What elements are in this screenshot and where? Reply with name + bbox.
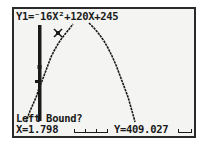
calculator-screen: Y1=⁻16X²+120X+245 Left Bound? X=1.798 Y=… xyxy=(12,7,196,138)
left-bound-prompt: Left Bound? xyxy=(16,113,82,124)
cursor-y-value: Y=409.027 xyxy=(114,124,168,135)
x-cross-marker xyxy=(54,29,62,37)
curve-intersection-point xyxy=(35,80,38,83)
left-bound-line xyxy=(38,25,42,121)
parabola-curve-left xyxy=(26,24,73,122)
cursor-x-value: X=1.798 xyxy=(16,124,58,135)
parabola-curve-right xyxy=(89,23,135,122)
x-value-ticks xyxy=(74,129,108,133)
trace-cursor-point xyxy=(38,65,42,69)
function-equation: Y1=⁻16X²+120X+245 xyxy=(16,11,118,22)
y-value-ticks xyxy=(178,129,192,133)
